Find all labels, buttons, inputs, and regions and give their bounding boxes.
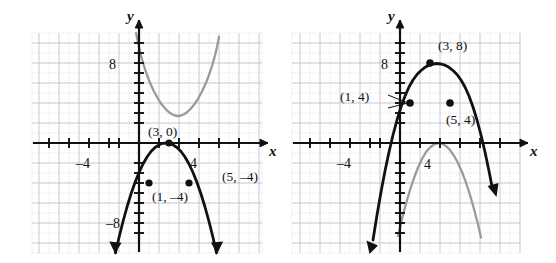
parabola-transformation-figure: y x –4 4 8 –8 (3, 0) (1, –4) (5, –4) [0, 0, 556, 263]
right-tick-label-neg4: –4 [336, 156, 351, 171]
left-point-5-neg4 [185, 179, 192, 186]
left-point-1-neg4 [145, 179, 152, 186]
left-graph: y x –4 4 8 –8 (3, 0) (1, –4) (5, –4) [0, 0, 278, 263]
left-tick-label-4: 4 [190, 156, 197, 171]
left-tick-label-8: 8 [109, 57, 116, 72]
left-y-axis-label: y [125, 8, 134, 24]
right-point-vertex [426, 59, 434, 67]
left-annotation-point-5: (5, –4) [222, 169, 258, 184]
left-tick-label-neg4: –4 [75, 156, 90, 171]
right-y-axis-label: y [386, 8, 395, 24]
left-x-axis-label: x [268, 143, 277, 159]
left-tick-label-neg8: –8 [105, 216, 120, 231]
right-graph: y x –4 4 8 (3, 8) (1, 4) (5, 4) [278, 0, 556, 263]
right-annotation-point-1: (1, 4) [340, 89, 369, 104]
right-point-5-4 [446, 99, 454, 107]
right-x-axis-label: x [529, 143, 538, 159]
left-annotation-point-1: (1, –4) [152, 189, 188, 204]
right-annotation-point-5: (5, 4) [446, 112, 475, 127]
right-tick-label-4: 4 [424, 157, 431, 172]
right-tick-label-8: 8 [381, 57, 388, 72]
left-annotation-vertex: (3, 0) [148, 124, 177, 139]
left-point-vertex [165, 139, 172, 146]
right-annotation-vertex: (3, 8) [438, 38, 467, 53]
